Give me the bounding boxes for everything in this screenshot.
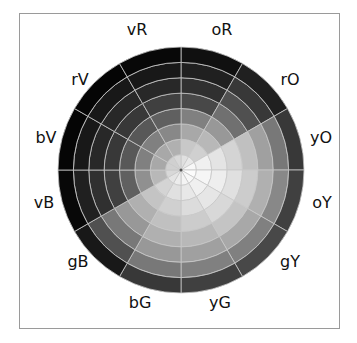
sector-label-gY: gY (280, 254, 300, 270)
sector-label-oY: oY (312, 195, 332, 211)
value-wheel (0, 0, 357, 343)
sector-label-yG: yG (209, 295, 231, 311)
sector-label-rO: rO (280, 72, 299, 88)
center-point (180, 169, 183, 172)
sector-label-bV: bV (35, 130, 56, 146)
sector-label-yO: yO (310, 130, 332, 146)
sector-label-gB: gB (67, 254, 88, 270)
sector-label-oR: oR (212, 22, 233, 38)
sector-label-bG: bG (129, 295, 152, 311)
sector-label-vB: vB (34, 195, 54, 211)
sector-label-rV: rV (71, 72, 89, 88)
sector-label-vR: vR (127, 22, 148, 38)
